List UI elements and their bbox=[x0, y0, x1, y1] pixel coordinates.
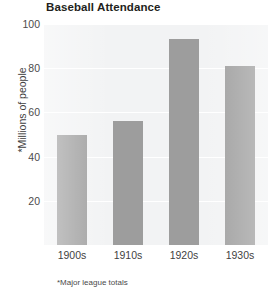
y-axis-tick-labels: 20406080100 bbox=[0, 24, 40, 245]
gridline bbox=[44, 24, 268, 25]
bar-chart: Baseball Attendance *Millions of people … bbox=[0, 0, 275, 298]
y-axis-tick-label: 60 bbox=[2, 106, 40, 118]
y-axis-tick-label: 80 bbox=[2, 62, 40, 74]
plot-area bbox=[44, 24, 268, 245]
bar bbox=[169, 39, 199, 245]
bar bbox=[57, 135, 87, 246]
bar bbox=[225, 66, 255, 245]
x-axis-tick-label: 1920s bbox=[170, 249, 199, 261]
bar bbox=[113, 121, 143, 245]
x-axis-tick-labels: 1900s1910s1920s1930s bbox=[44, 249, 268, 265]
y-axis-tick-label: 40 bbox=[2, 151, 40, 163]
y-axis-tick-label: 100 bbox=[2, 18, 40, 30]
x-axis-tick-label: 1930s bbox=[226, 249, 255, 261]
chart-footnote: *Major league totals bbox=[57, 278, 128, 287]
chart-title: Baseball Attendance bbox=[46, 1, 161, 13]
x-axis-tick-label: 1910s bbox=[114, 249, 143, 261]
y-axis-tick-label: 20 bbox=[2, 195, 40, 207]
x-axis-tick-label: 1900s bbox=[58, 249, 87, 261]
